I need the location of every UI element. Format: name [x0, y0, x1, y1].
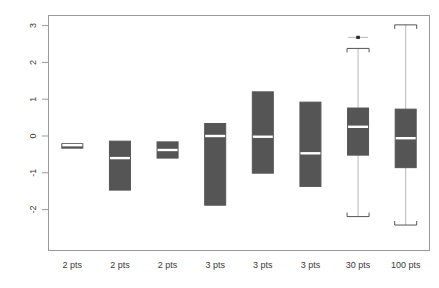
y-axis-tick-label: 1	[28, 97, 38, 102]
x-axis-category-label: 2 pts	[63, 260, 83, 270]
boxplot-box	[62, 144, 83, 148]
boxplot-box	[252, 92, 273, 173]
y-axis-tick-label: -2	[28, 206, 38, 214]
x-axis-category-label: 3 pts	[253, 260, 273, 270]
x-axis-category-label: 2 pts	[158, 260, 178, 270]
box-iqr	[300, 102, 321, 186]
x-axis-category-label: 2 pts	[110, 260, 130, 270]
box-iqr	[252, 92, 273, 173]
outlier-point	[356, 36, 360, 39]
x-axis-category-label: 100 pts	[391, 260, 421, 270]
y-axis-tick-label: 3	[28, 23, 38, 28]
boxplot-box	[300, 102, 321, 186]
boxplot-box	[157, 142, 178, 158]
plot-area: 3210-1-2 2 pts2 pts2 pts3 pts3 pts3 pts3…	[0, 0, 439, 288]
boxplot-box	[109, 141, 130, 190]
box-iqr	[348, 108, 369, 155]
x-axis: 2 pts2 pts2 pts3 pts3 pts3 pts30 pts100 …	[63, 260, 421, 270]
y-axis-tick-label: -1	[28, 169, 38, 177]
boxplot-box	[205, 123, 226, 205]
y-axis: 3210-1-2	[28, 23, 49, 214]
boxplot-box	[347, 36, 369, 217]
boxplot-box	[395, 25, 417, 225]
x-axis-category-label: 30 pts	[346, 260, 371, 270]
y-axis-tick-label: 0	[28, 133, 38, 138]
x-axis-category-label: 3 pts	[301, 260, 321, 270]
box-iqr	[109, 141, 130, 190]
plot-frame	[49, 16, 430, 251]
y-axis-tick-label: 2	[28, 60, 38, 65]
box-series	[62, 25, 417, 225]
x-axis-category-label: 3 pts	[205, 260, 225, 270]
boxplot-chart: 3210-1-2 2 pts2 pts2 pts3 pts3 pts3 pts3…	[0, 0, 439, 288]
